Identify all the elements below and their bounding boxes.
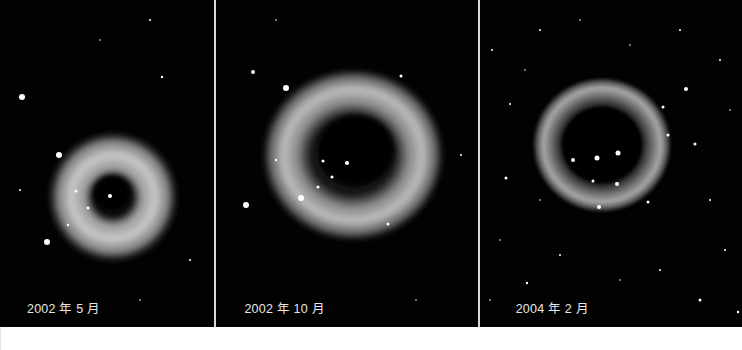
- bottom-margin: [0, 327, 742, 350]
- panel-caption: 2002 年 10 月: [244, 298, 324, 317]
- nebula-image-3: [480, 0, 742, 327]
- panel-caption: 2004 年 2 月: [516, 298, 589, 317]
- image-strip: 2002 年 5 月: [0, 0, 742, 327]
- panel-2002-october: 2002 年 10 月: [216, 0, 477, 327]
- panel-2002-may: 2002 年 5 月: [0, 0, 214, 327]
- panel-2004-february: 2004 年 2 月: [480, 0, 742, 327]
- nebula-image-1: [0, 0, 214, 327]
- panel-caption: 2002 年 5 月: [27, 298, 100, 317]
- nebula-image-2: [216, 0, 477, 327]
